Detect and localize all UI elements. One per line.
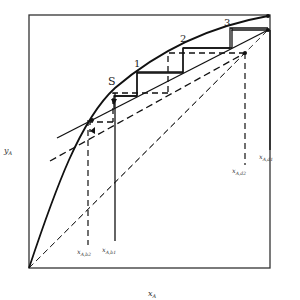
stage-label-1: 1 <box>134 58 140 69</box>
operating-line-1 <box>57 30 268 138</box>
stage-1-step <box>114 48 183 96</box>
x-axis-label: xA <box>148 289 157 299</box>
operating-line-2 <box>50 53 245 161</box>
stage-label-2: 2 <box>180 33 186 44</box>
x-d1-label: xA,d1 <box>259 153 273 162</box>
stage-label-3: 3 <box>224 17 230 28</box>
x-d2-label: xA,d2 <box>232 167 246 176</box>
x-b1-label: xA,b1 <box>102 246 116 255</box>
stage-steps-dashed <box>90 53 245 132</box>
point-intersect <box>90 118 94 122</box>
y-axis-label: yA <box>3 146 13 156</box>
x-b2-label: xA,b2 <box>77 248 91 257</box>
feed-stage-label: S <box>108 75 116 88</box>
arrow-marker <box>90 127 95 134</box>
arrow-marker <box>111 99 117 105</box>
point-top <box>266 14 270 18</box>
stage-construction-diagram: S 1 2 3 yA xA xA,b2 xA,b1 xA,d1 xA,d2 <box>0 0 300 300</box>
equilibrium-curve <box>29 16 268 268</box>
stage-3-step <box>230 28 268 48</box>
